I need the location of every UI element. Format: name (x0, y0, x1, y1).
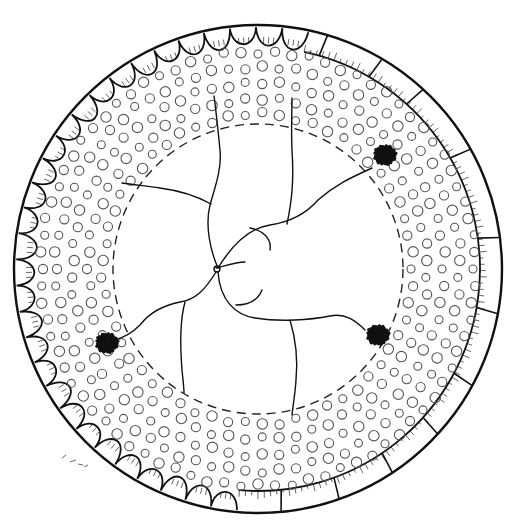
pore (46, 197, 56, 207)
pore (463, 213, 473, 223)
pore (98, 255, 108, 265)
pore (257, 419, 267, 429)
wall-hatch (345, 60, 347, 65)
pore (148, 150, 156, 158)
wall-hatch (453, 161, 457, 163)
canal-lower-left (115, 272, 216, 340)
pore (74, 205, 84, 215)
pore (417, 306, 427, 316)
pore (116, 190, 124, 198)
pore (258, 79, 267, 88)
pore (112, 429, 122, 439)
pore (422, 273, 430, 281)
pore (394, 331, 403, 340)
pore (454, 273, 462, 281)
pore (401, 215, 409, 223)
pore (377, 361, 385, 369)
pore (405, 416, 414, 425)
canal-branch-down (290, 320, 297, 415)
outer-boundary (14, 25, 502, 513)
scallop-hatch (46, 174, 51, 176)
wall-hatch (470, 201, 477, 203)
pore (241, 112, 249, 120)
pore (134, 405, 143, 414)
pore (98, 160, 108, 170)
pore (292, 64, 301, 73)
pore (306, 105, 316, 115)
pore (435, 316, 443, 324)
pore (393, 121, 403, 131)
pore (224, 462, 234, 472)
pore (353, 90, 363, 100)
pore (86, 298, 96, 308)
pore (461, 197, 470, 206)
scallop-hatch (39, 193, 45, 195)
pore (236, 48, 246, 58)
wall-hatch (386, 450, 390, 455)
scallop-hatch (33, 326, 39, 328)
wall-hatch (419, 422, 421, 424)
pore (68, 273, 77, 282)
pore (432, 353, 442, 363)
scallop-hatch (131, 458, 134, 463)
pore (381, 401, 389, 409)
pore (177, 115, 185, 123)
pore (241, 453, 249, 461)
pore (120, 414, 128, 422)
pore (416, 324, 424, 332)
scallop-hatch (92, 427, 96, 431)
pore (61, 332, 69, 340)
pore (274, 77, 284, 87)
pore (258, 108, 267, 117)
pore (102, 290, 110, 298)
wall-hatch (473, 326, 479, 328)
wall-hatch (370, 460, 373, 464)
scallop-hatch (196, 487, 198, 493)
pore (126, 90, 135, 99)
scallop-hatch (36, 203, 42, 205)
pore (224, 82, 234, 92)
pore (367, 138, 375, 146)
pore (110, 206, 120, 216)
pore (111, 382, 119, 390)
pore (224, 418, 233, 427)
pore (118, 114, 128, 124)
pore (131, 103, 139, 111)
pore (377, 379, 386, 388)
pore (174, 128, 184, 138)
pore (427, 331, 436, 340)
pore (416, 383, 425, 392)
scallop-hatch (37, 198, 43, 200)
scallop-hatch (84, 115, 88, 119)
pore (220, 478, 229, 487)
scallop-hatch (28, 297, 34, 298)
pore (403, 298, 413, 308)
pore (415, 167, 423, 175)
pore (69, 151, 79, 161)
pore (385, 184, 394, 193)
pore (435, 231, 444, 240)
pore (174, 452, 184, 462)
pore (321, 472, 330, 481)
pore (422, 255, 432, 265)
pore (69, 346, 79, 356)
pore (208, 463, 216, 471)
pore (156, 72, 164, 80)
pore (124, 353, 134, 363)
pore (275, 65, 283, 73)
scallop-hatch (111, 444, 115, 449)
pore (292, 432, 301, 441)
pore (435, 297, 445, 307)
pore (68, 291, 76, 299)
pore (383, 344, 393, 354)
pore (112, 99, 120, 107)
wall-hatch (459, 172, 465, 175)
canal-top-left (208, 96, 220, 268)
illustration-canvas (0, 0, 517, 528)
pore (408, 190, 417, 199)
pore (241, 418, 249, 426)
pore (355, 439, 363, 447)
wall-hatch (319, 482, 321, 488)
pore (105, 125, 114, 134)
scallop-hatch (76, 409, 81, 413)
